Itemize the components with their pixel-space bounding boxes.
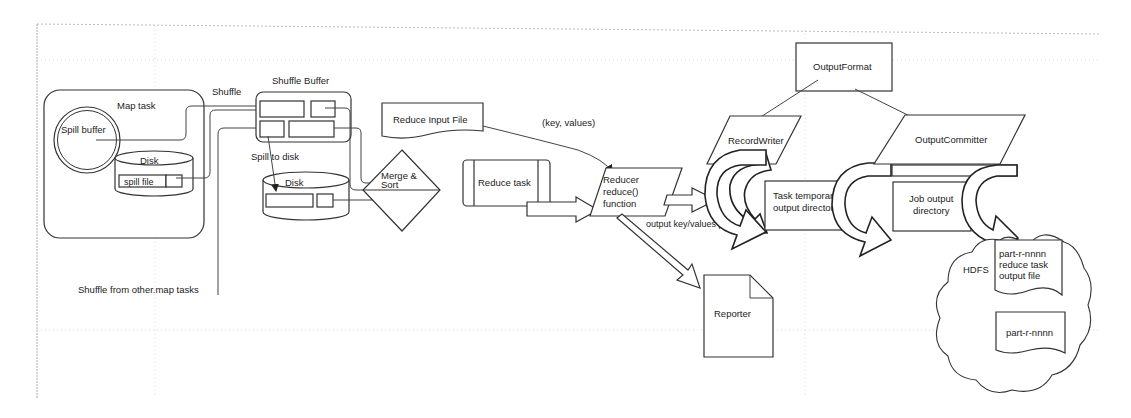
merge-sort-label-2: Sort [381, 179, 399, 190]
part-file2-label: part-r-nnnn [1006, 327, 1053, 338]
task-temp-label-1: Task temporary [773, 190, 838, 201]
hdfs-cloud: HDFS part-r-nnnn reduce task output file… [936, 235, 1091, 393]
job-output-label-1: Job output [909, 193, 954, 204]
reducer-label-3: function [603, 198, 636, 209]
part-file-label-1: part-r-nnnn [999, 248, 1046, 259]
task-temp-label-2: output directory [773, 202, 839, 213]
reduce-task: Reduce task [463, 160, 598, 222]
reduce-input-file-label: Reduce Input File [393, 114, 467, 125]
merge-sort-node: Merge & Sort [363, 150, 440, 231]
output-committer-label: OutputCommitter [915, 134, 987, 145]
curved-arrow-2 [832, 163, 891, 256]
record-writer-label: RecordWriter [728, 135, 784, 146]
part-file-label-2: reduce task [999, 259, 1048, 270]
shuffle-disk-label: Disk [285, 177, 304, 188]
shuffle-disk: Disk [263, 136, 349, 220]
reducer-label-2: reduce() [603, 186, 638, 197]
map-task-label: Map task [117, 100, 156, 111]
spill-file-label: spill file [124, 177, 154, 187]
shuffle-label: Shuffle [212, 86, 241, 97]
map-disk-label: Disk [140, 155, 159, 166]
reducer-node: Reducer reduce() function [590, 168, 682, 216]
hdfs-label: HDFS [963, 264, 989, 275]
reduce-task-label: Reduce task [478, 177, 531, 188]
map-disk: Disk spill file [115, 151, 193, 196]
shuffle-buffer: Shuffle Buffer Spill to disk [251, 75, 351, 162]
map-task-group: Map task Spill buffer Disk spill file [44, 90, 204, 238]
mapreduce-diagram: Map task Spill buffer Disk spill file Sh… [0, 0, 1131, 418]
spill-to-disk-label: Spill to disk [251, 151, 299, 162]
shuffle-other-label: Shuffle from other.map tasks [78, 284, 199, 295]
part-file-label-3: output file [999, 270, 1040, 281]
output-format-label: OutputFormat [813, 61, 872, 72]
reporter-node: Reporter [704, 275, 773, 357]
shuffle-buffer-label: Shuffle Buffer [272, 75, 329, 86]
key-values-label: (key, values) [542, 117, 595, 128]
job-output-label-2: directory [913, 205, 950, 216]
job-output-dir-node: Job output directory [893, 182, 971, 231]
reducer-label-1: Reducer [603, 174, 639, 185]
spill-buffer-label: Spill buffer [61, 124, 106, 135]
reporter-label: Reporter [714, 308, 751, 319]
